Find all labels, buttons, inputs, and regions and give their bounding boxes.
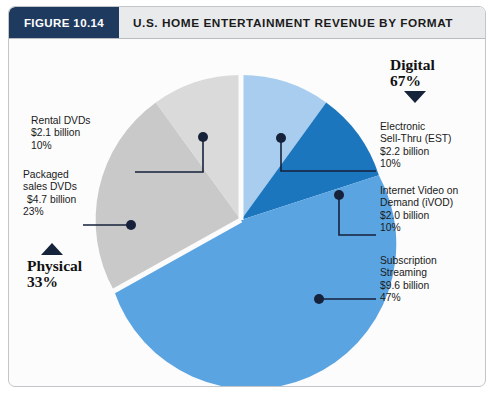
triangle-up-icon <box>41 243 63 255</box>
callout-rental-dvds-line1: Rental DVDs <box>31 115 91 127</box>
callout-packaged-sales-dvds-value: $4.7 billion <box>23 194 77 206</box>
callout-packaged-sales-dvds: Packaged sales DVDs $4.7 billion 23% <box>23 169 77 219</box>
group-label-physical-name: Physical <box>27 257 82 274</box>
callout-ivod-line2: Demand (iVOD) <box>380 197 458 209</box>
callout-ivod-value: $2.0 billion <box>380 210 458 222</box>
pie-chart-plot-area: Digital 67% Physical 33% Rental DVDs $2.… <box>9 39 486 387</box>
callout-ivod-percent: 10% <box>380 222 458 234</box>
callout-ivod-line1: Internet Video on <box>380 185 458 197</box>
callout-rental-dvds-value: $2.1 billion <box>31 127 91 139</box>
figure-header: FIGURE 10.14 U.S. HOME ENTERTAINMENT REV… <box>9 7 485 39</box>
group-label-digital-name: Digital <box>390 56 435 73</box>
figure-number-badge: FIGURE 10.14 <box>9 7 119 38</box>
callout-subscription-streaming: Subscription Streaming $9.6 billion 47% <box>380 255 437 305</box>
callout-electronic-sell-thru-line1: Electronic <box>380 121 452 133</box>
figure-container: FIGURE 10.14 U.S. HOME ENTERTAINMENT REV… <box>8 6 486 387</box>
figure-title: U.S. HOME ENTERTAINMENT REVENUE BY FORMA… <box>133 7 453 38</box>
dot-subscription-streaming <box>314 294 324 304</box>
callout-electronic-sell-thru-value: $2.2 billion <box>380 146 452 158</box>
callout-ivod: Internet Video on Demand (iVOD) $2.0 bil… <box>380 185 458 235</box>
callout-subscription-streaming-percent: 47% <box>380 292 437 304</box>
group-label-physical: Physical 33% <box>27 243 82 290</box>
callout-packaged-sales-dvds-percent: 23% <box>23 206 77 218</box>
dot-rental-dvds <box>198 132 208 142</box>
pie-slices <box>96 75 397 387</box>
callout-subscription-streaming-value: $9.6 billion <box>380 280 437 292</box>
dot-electronic-sell-thru <box>276 133 286 143</box>
figure-number-label: FIGURE 10.14 <box>24 17 104 29</box>
callout-electronic-sell-thru: Electronic Sell-Thru (EST) $2.2 billion … <box>380 121 452 171</box>
callout-electronic-sell-thru-line2: Sell-Thru (EST) <box>380 133 452 145</box>
callout-subscription-streaming-line2: Streaming <box>380 267 437 279</box>
group-label-digital: Digital 67% <box>390 57 435 103</box>
callout-packaged-sales-dvds-line1: Packaged <box>23 169 77 181</box>
dot-ivod <box>334 190 344 200</box>
group-label-physical-percent: 33% <box>27 273 58 290</box>
triangle-down-icon <box>404 91 426 103</box>
callout-electronic-sell-thru-percent: 10% <box>380 158 452 170</box>
callout-rental-dvds: Rental DVDs $2.1 billion 10% <box>31 115 91 152</box>
group-label-digital-percent: 67% <box>390 72 421 89</box>
callout-subscription-streaming-line1: Subscription <box>380 255 437 267</box>
callout-rental-dvds-percent: 10% <box>31 140 91 152</box>
callout-packaged-sales-dvds-line2: sales DVDs <box>23 181 77 193</box>
dot-packaged-sales-dvds <box>126 220 136 230</box>
